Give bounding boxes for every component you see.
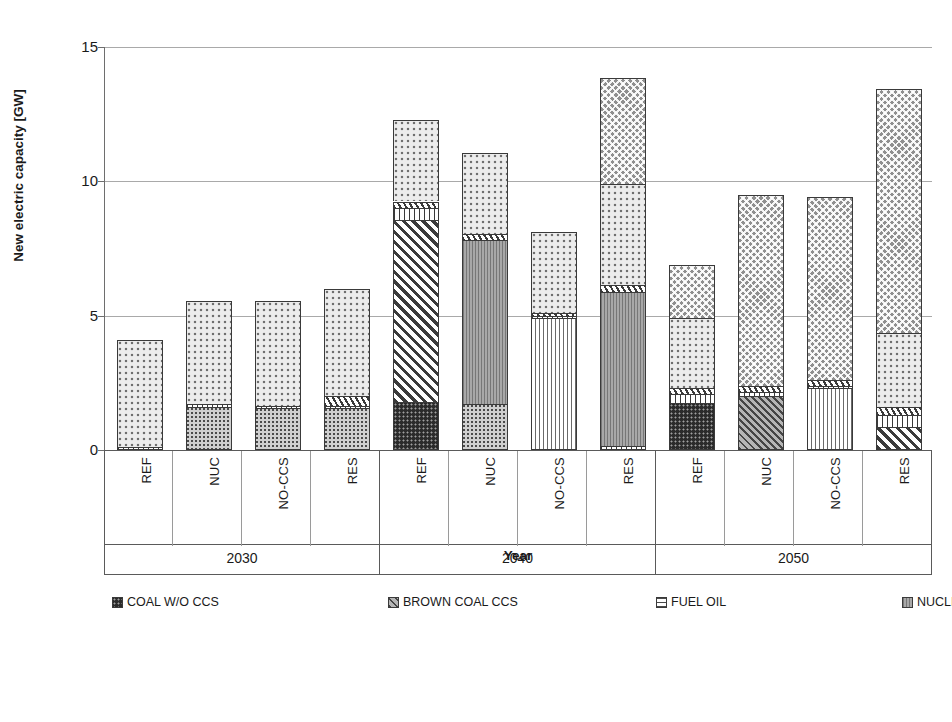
x-axis-scenario-label: NO-CCS <box>552 457 567 509</box>
y-axis-title: New electric capacity [GW] <box>11 46 26 306</box>
x-axis-scenario-label: REF <box>414 457 429 484</box>
bar-segment <box>393 402 439 450</box>
bar-segment <box>876 407 922 415</box>
bar-segment <box>600 292 646 446</box>
bar-segment <box>669 318 715 388</box>
x-axis-scenario-cell: NO-CCS <box>242 451 311 546</box>
bar-column[interactable] <box>876 47 922 450</box>
bar-segment <box>807 388 853 450</box>
legend-item[interactable]: COAL W/O CCS <box>112 592 388 612</box>
bar-segment <box>117 340 163 447</box>
bar-segment <box>600 184 646 285</box>
bar-segment <box>393 208 439 220</box>
y-tick-label-0: 0 <box>62 442 98 457</box>
bar-segment <box>807 197 853 380</box>
y-tick-label-5: 5 <box>62 308 98 323</box>
bar-segment <box>255 301 301 406</box>
bar-segment <box>600 78 646 184</box>
x-axis-scenario-label: REF <box>139 457 154 484</box>
bar-column[interactable] <box>600 47 646 450</box>
bar-segment <box>669 403 715 450</box>
bar-segment <box>462 404 508 450</box>
bar-segment <box>738 195 784 386</box>
x-axis-scenario-label: RES <box>897 457 912 484</box>
bar-segment <box>393 202 439 209</box>
x-axis-scenario-label: NUC <box>759 457 774 486</box>
bar-segment <box>462 240 508 404</box>
x-axis-scenario-label: REF <box>690 457 705 484</box>
bar-column[interactable] <box>117 47 163 450</box>
bar-segment <box>876 415 922 427</box>
bar-column[interactable] <box>186 47 232 450</box>
bar-segment <box>876 89 922 333</box>
bar-segment <box>669 394 715 403</box>
legend-label: FUEL OIL <box>671 596 726 609</box>
y-tick-label-15: 15 <box>62 39 98 54</box>
bar-segment <box>669 388 715 393</box>
y-tick-label-10: 10 <box>62 173 98 188</box>
x-axis-scenario-label: RES <box>345 457 360 484</box>
bar-column[interactable] <box>669 47 715 450</box>
bar-segment <box>738 386 784 393</box>
x-axis-scenario-label: RES <box>621 457 636 484</box>
bar-column[interactable] <box>393 47 439 450</box>
x-axis-scenario-cell: REF <box>104 451 173 546</box>
legend-item[interactable]: NUCLEAR <box>902 592 952 612</box>
bar-segment <box>807 380 853 385</box>
bar-column[interactable] <box>738 47 784 450</box>
bar-segment <box>738 396 784 450</box>
bar-segment <box>186 301 232 404</box>
x-axis-scenario-label: NO-CCS <box>276 457 291 509</box>
legend-swatch-icon <box>388 597 399 608</box>
bar-segment <box>669 265 715 319</box>
x-axis-scenario-cell: RES <box>311 451 380 546</box>
legend-item[interactable]: FUEL OIL <box>656 592 902 612</box>
x-axis-scenario-cell: NO-CCS <box>518 451 587 546</box>
bar-segment <box>186 404 232 407</box>
bar-segment <box>324 408 370 450</box>
bar-column[interactable] <box>255 47 301 450</box>
x-axis-scenario-cell: RES <box>587 451 656 546</box>
legend-item[interactable]: BROWN COAL CCS <box>388 592 656 612</box>
bar-segment <box>876 427 922 450</box>
bar-segment <box>531 316 577 319</box>
bar-segment <box>876 333 922 407</box>
x-axis-scenario-cell: NO-CCS <box>794 451 863 546</box>
x-axis-scenario-strip: REFNUCNO-CCSRESREFNUCNO-CCSRESREFNUCNO-C… <box>104 450 932 545</box>
bar-segment <box>255 406 301 409</box>
bar-segment <box>393 120 439 202</box>
bar-segment <box>807 386 853 389</box>
legend-label: COAL W/O CCS <box>127 596 219 609</box>
bar-segment <box>324 406 370 409</box>
bar-column[interactable] <box>531 47 577 450</box>
x-axis-scenario-cell: NUC <box>173 451 242 546</box>
x-axis-scenario-label: NO-CCS <box>828 457 843 509</box>
x-axis-scenario-cell: REF <box>380 451 449 546</box>
bar-segment <box>462 234 508 241</box>
bar-segment <box>531 318 577 450</box>
chart-figure: 051015 New electric capacity [GW] REFNUC… <box>0 0 952 722</box>
x-axis-scenario-label: NUC <box>207 457 222 486</box>
plot-area <box>104 47 932 450</box>
bar-column[interactable] <box>807 47 853 450</box>
bar-segment <box>600 285 646 292</box>
bar-column[interactable] <box>324 47 370 450</box>
bar-segment <box>531 232 577 313</box>
bar-segment <box>531 313 577 316</box>
legend-label: NUCLEAR <box>917 596 952 609</box>
bar-segment <box>738 392 784 396</box>
x-axis-scenario-cell: RES <box>863 451 932 546</box>
bar-segment <box>186 407 232 450</box>
legend-swatch-icon <box>656 597 667 608</box>
bar-segment <box>324 396 370 405</box>
bar-segment <box>324 289 370 396</box>
x-axis-scenario-label: NUC <box>483 457 498 486</box>
x-axis-title: Year <box>104 548 932 563</box>
legend-label: BROWN COAL CCS <box>403 596 518 609</box>
x-axis-scenario-cell: NUC <box>449 451 518 546</box>
bar-column[interactable] <box>462 47 508 450</box>
legend-swatch-icon <box>112 597 123 608</box>
legend-swatch-icon <box>902 597 913 608</box>
bar-segment <box>393 220 439 401</box>
chart-legend: COAL W/O CCSBROWN COAL CCSFUEL OILNUCLEA… <box>112 592 902 612</box>
